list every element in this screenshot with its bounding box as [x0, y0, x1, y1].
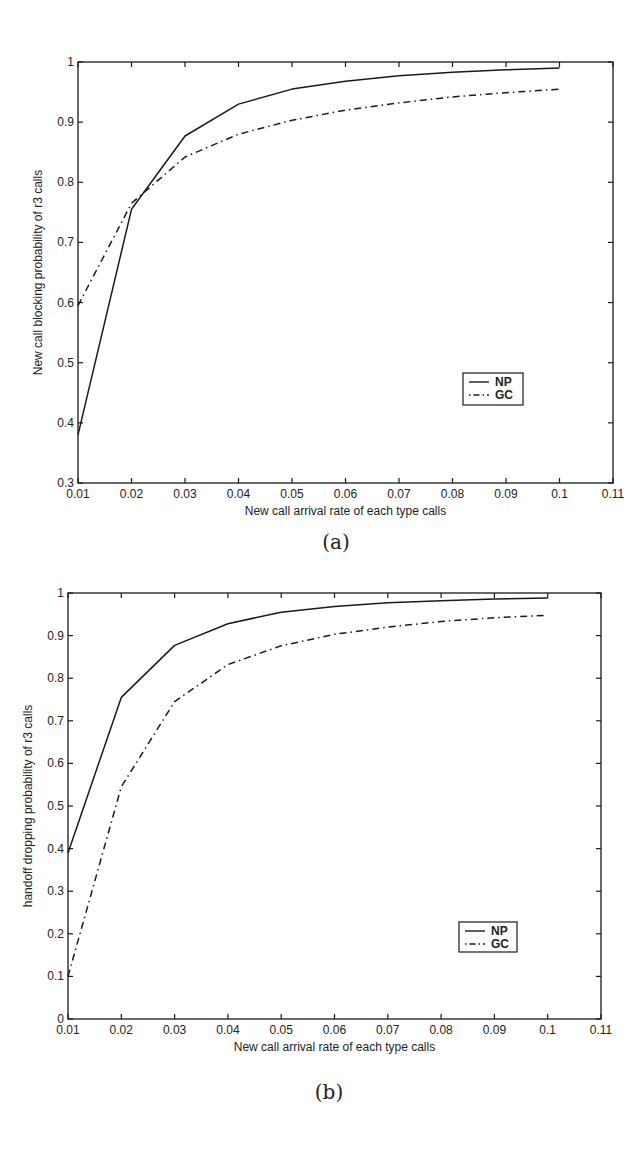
- x-tick-label: 0.06: [323, 1023, 347, 1037]
- x-tick-label: 0.1: [539, 1023, 556, 1037]
- y-tick-label: 0.5: [47, 799, 64, 813]
- y-tick-label: 0.6: [47, 756, 64, 770]
- y-tick-label: 0.8: [57, 175, 74, 189]
- series-line-np: [68, 598, 548, 853]
- series-line-gc: [78, 89, 560, 306]
- x-tick-label: 0.05: [280, 487, 304, 501]
- x-tick-label: 0.09: [483, 1023, 507, 1037]
- legend-label-gc: GC: [495, 388, 513, 402]
- x-tick-label: 0.09: [494, 487, 518, 501]
- x-axis-label: New call arrival rate of each type calls: [234, 1040, 435, 1054]
- x-tick-label: 0.03: [163, 1023, 187, 1037]
- chart-panel-a: 0.010.020.030.040.050.060.070.080.090.10…: [31, 55, 625, 518]
- y-tick-label: 0.7: [47, 714, 64, 728]
- x-tick-label: 0.07: [376, 1023, 400, 1037]
- legend-label-np: NP: [491, 924, 508, 938]
- caption-b: (b): [299, 1080, 359, 1104]
- y-tick-label: 0.8: [47, 671, 64, 685]
- y-tick-label: 0.9: [47, 629, 64, 643]
- y-tick-label: 0.6: [57, 296, 74, 310]
- plot-frame: [78, 62, 613, 483]
- x-tick-label: 0.02: [120, 487, 144, 501]
- y-tick-label: 0.2: [47, 927, 64, 941]
- caption-a: (a): [306, 530, 366, 554]
- y-tick-label: 0.5: [57, 356, 74, 370]
- x-tick-label: 0.08: [441, 487, 465, 501]
- y-tick-label: 0.3: [57, 476, 74, 490]
- y-tick-label: 0.4: [57, 416, 74, 430]
- y-axis-label: New call blocking probability of r3 call…: [31, 170, 45, 375]
- y-tick-label: 0: [57, 1012, 64, 1026]
- x-tick-label: 0.03: [173, 487, 197, 501]
- y-tick-label: 1: [67, 55, 74, 69]
- y-tick-label: 0.4: [47, 842, 64, 856]
- x-tick-label: 0.1: [551, 487, 568, 501]
- y-tick-label: 0.3: [47, 884, 64, 898]
- legend-box: [463, 373, 523, 405]
- x-tick-label: 0.02: [110, 1023, 134, 1037]
- x-tick-label: 0.07: [387, 487, 411, 501]
- x-axis-label: New call arrival rate of each type calls: [245, 504, 446, 518]
- y-tick-label: 1: [57, 586, 64, 600]
- x-tick-label: 0.11: [602, 487, 625, 501]
- x-tick-label: 0.11: [590, 1023, 613, 1037]
- y-axis-label: handoff dropping probability of r3 calls: [21, 705, 35, 908]
- x-tick-label: 0.04: [227, 487, 251, 501]
- x-tick-label: 0.05: [270, 1023, 294, 1037]
- y-tick-label: 0.1: [47, 969, 64, 983]
- x-tick-label: 0.08: [429, 1023, 453, 1037]
- x-tick-label: 0.06: [334, 487, 358, 501]
- chart-panel-b: 0.010.020.030.040.050.060.070.080.090.10…: [21, 586, 613, 1054]
- legend-label-gc: GC: [491, 937, 509, 951]
- figure-canvas: 0.010.020.030.040.050.060.070.080.090.10…: [0, 0, 644, 1171]
- y-tick-label: 0.9: [57, 115, 74, 129]
- x-tick-label: 0.04: [216, 1023, 240, 1037]
- y-tick-label: 0.7: [57, 235, 74, 249]
- legend-label-np: NP: [495, 375, 512, 389]
- plot-frame: [68, 593, 601, 1019]
